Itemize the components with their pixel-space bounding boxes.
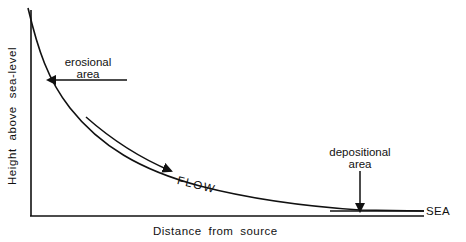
erosional-label-line1: erosional — [58, 56, 118, 68]
river-profile-diagram — [0, 0, 466, 242]
erosional-area-label: erosional area — [58, 56, 118, 80]
sea-label: SEA — [426, 205, 450, 217]
depositional-label-line1: depositional — [325, 146, 395, 158]
flow-arrow — [86, 117, 171, 171]
depositional-area-label: depositional area — [325, 146, 395, 170]
y-axis-label: Height above sea-level — [6, 47, 18, 185]
depositional-label-line2: area — [325, 158, 395, 170]
erosional-label-line2: area — [58, 68, 118, 80]
long-profile-curve — [28, 8, 424, 211]
x-axis-label: Distance from source — [153, 225, 278, 237]
